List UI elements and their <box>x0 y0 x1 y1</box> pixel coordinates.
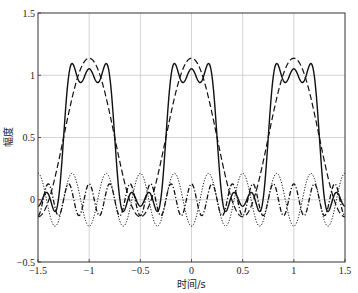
y-axis-ticks: −0.500.511.5 <box>17 8 41 268</box>
y-tick-label: 0.5 <box>23 132 36 143</box>
x-tick-label: 0.5 <box>236 265 249 276</box>
y-tick-label: −0.5 <box>17 257 35 268</box>
grid-lines <box>38 13 345 262</box>
x-tick-label: 1.5 <box>339 265 352 276</box>
x-tick-label: −1 <box>84 265 95 276</box>
x-tick-label: −0.5 <box>131 265 149 276</box>
y-tick-label: 1 <box>30 70 35 81</box>
chart: −1.5−1−0.500.511.5 −0.500.511.5 时间/s 幅度 <box>0 0 358 293</box>
x-tick-label: 0 <box>189 265 194 276</box>
y-tick-label: 1.5 <box>23 8 36 19</box>
y-axis-label: 幅度 <box>2 127 14 147</box>
x-axis-label: 时间/s <box>177 278 206 290</box>
y-tick-label: 0 <box>30 194 35 205</box>
x-tick-label: 1 <box>291 265 296 276</box>
